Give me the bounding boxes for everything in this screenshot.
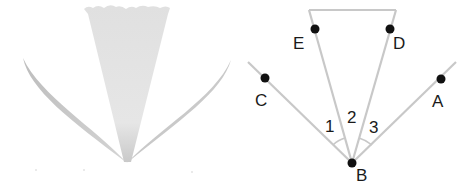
angle-label-1: 1 xyxy=(325,117,334,136)
point-label-A: A xyxy=(432,92,444,111)
point-label-E: E xyxy=(293,34,304,53)
point-label-C: C xyxy=(255,91,267,110)
point-D-dot xyxy=(386,25,395,34)
angle-label-2: 2 xyxy=(347,108,356,127)
point-label-B: B xyxy=(356,166,367,185)
point-E-dot xyxy=(311,25,320,34)
angle-arc-3 xyxy=(359,138,372,145)
angle-label-3: 3 xyxy=(369,118,378,137)
leaf-fan-illustration xyxy=(23,5,231,173)
angle-diagram xyxy=(248,10,456,163)
points xyxy=(261,25,446,168)
point-C-dot xyxy=(261,74,270,83)
point-A-dot xyxy=(437,75,446,84)
angle-arc-1 xyxy=(333,138,345,145)
point-label-D: D xyxy=(393,34,405,53)
figure-canvas: E D C A B 1 2 3 xyxy=(0,0,467,188)
